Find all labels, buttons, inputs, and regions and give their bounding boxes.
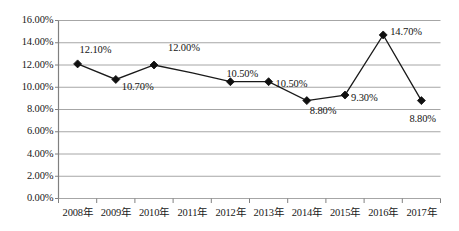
data-point-label: 10.50% bbox=[226, 68, 258, 79]
y-axis-tick-label: 12.00% bbox=[22, 60, 54, 71]
x-axis-ticks bbox=[59, 199, 441, 204]
data-point-marker bbox=[112, 75, 120, 83]
y-axis-tick-label: 2.00% bbox=[27, 171, 54, 182]
data-point-label: 8.80% bbox=[409, 113, 436, 124]
line-chart: 0.00%2.00%4.00%6.00%8.00%10.00%12.00%14.… bbox=[0, 0, 459, 231]
data-point-label: 10.70% bbox=[122, 81, 154, 92]
data-point-marker bbox=[303, 97, 311, 105]
y-axis-tick-label: 8.00% bbox=[27, 104, 54, 115]
data-point-marker bbox=[417, 97, 425, 105]
data-point-label: 12.00% bbox=[168, 42, 200, 53]
y-axis-tick-label: 4.00% bbox=[27, 149, 54, 160]
data-point-label: 9.30% bbox=[351, 92, 378, 103]
y-axis-tick-label: 16.00% bbox=[22, 15, 54, 26]
data-point-marker bbox=[265, 78, 273, 86]
data-point-label: 10.50% bbox=[276, 78, 308, 89]
y-axis-tick-label: 6.00% bbox=[27, 126, 54, 137]
gridlines bbox=[55, 21, 441, 199]
data-point-label: 8.80% bbox=[310, 105, 337, 116]
data-point-label: 12.10% bbox=[80, 44, 112, 55]
y-axis-tick-label: 10.00% bbox=[22, 82, 54, 93]
y-axis-tick-label: 0.00% bbox=[27, 193, 54, 204]
y-axis-tick-label: 14.00% bbox=[22, 37, 54, 48]
data-point-marker bbox=[379, 31, 387, 39]
data-point-marker bbox=[150, 61, 158, 69]
x-axis-tick-label: 2017年 bbox=[399, 207, 443, 218]
data-point-marker bbox=[341, 91, 349, 99]
data-point-marker bbox=[226, 78, 234, 86]
data-point-label: 14.70% bbox=[390, 26, 422, 37]
data-point-marker bbox=[74, 60, 82, 68]
